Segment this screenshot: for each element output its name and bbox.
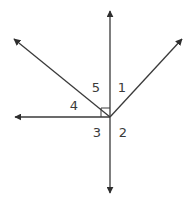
angle-label-5: 5 [92, 81, 100, 94]
ray-upper-right [110, 39, 182, 117]
angle-label-1: 1 [118, 81, 126, 94]
angle-label-3: 3 [93, 126, 101, 139]
angle-label-2: 2 [119, 126, 127, 139]
angle-diagram-svg [0, 0, 192, 201]
ray-upper-left [14, 39, 110, 117]
angle-label-4: 4 [70, 99, 78, 112]
angle-diagram: 1 2 3 4 5 [0, 0, 192, 201]
